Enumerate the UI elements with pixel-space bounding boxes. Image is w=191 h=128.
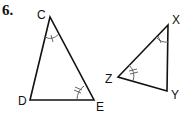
angle-x-arc	[156, 37, 168, 42]
triangle-xyz	[118, 25, 168, 91]
vertex-label-e: E	[96, 101, 104, 113]
vertex-label-y: Y	[171, 89, 179, 101]
vertex-label-z: Z	[105, 73, 112, 85]
vertex-label-x: X	[172, 14, 180, 26]
vertex-label-c: C	[37, 9, 46, 21]
vertex-label-d: D	[18, 95, 27, 107]
triangle-cde	[30, 17, 94, 100]
